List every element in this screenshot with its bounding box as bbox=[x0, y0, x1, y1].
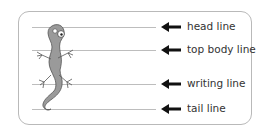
arrow-left-icon bbox=[161, 104, 181, 114]
arrow-left-icon bbox=[161, 79, 181, 89]
top-body-line-label: top body line bbox=[187, 43, 256, 55]
arrow-left-icon bbox=[161, 22, 181, 32]
head-line-label: head line bbox=[187, 20, 236, 32]
writing-line-label: writing line bbox=[187, 77, 245, 89]
tail-line-label: tail line bbox=[187, 102, 226, 114]
arrow-left-icon bbox=[161, 45, 181, 55]
gecko-icon bbox=[30, 22, 85, 112]
